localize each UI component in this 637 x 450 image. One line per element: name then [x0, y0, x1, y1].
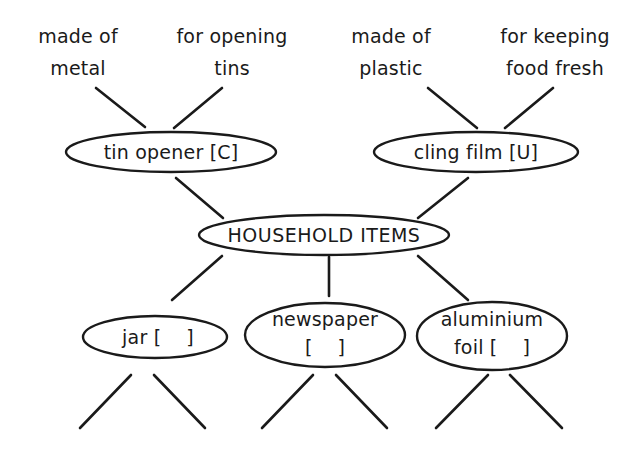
connector-line	[336, 375, 387, 428]
node-label-jar: jar [ ]	[122, 325, 194, 349]
attribute-label: made of plastic	[351, 24, 431, 80]
attribute-line: plastic	[351, 56, 431, 80]
connector-line	[505, 88, 553, 128]
node-label-newspaper: newspaper [ ]	[272, 307, 378, 359]
node-label-tin-opener: tin opener [C]	[104, 140, 239, 164]
attribute-label: for keeping food fresh	[500, 24, 610, 80]
node-label-line: aluminium	[441, 307, 543, 331]
connector-line	[154, 375, 205, 428]
node-label-cling-film: cling film [U]	[414, 140, 538, 164]
attribute-label: for opening tins	[176, 24, 287, 80]
connector-line	[174, 88, 222, 128]
connector-line	[510, 375, 562, 428]
node-label-household-items: HOUSEHOLD ITEMS	[228, 223, 421, 247]
node-label-aluminium-foil: aluminium foil [ ]	[441, 307, 543, 359]
attribute-line: metal	[38, 56, 118, 80]
connector-line	[418, 256, 468, 300]
attribute-line: food fresh	[500, 56, 610, 80]
attribute-line: for opening	[176, 24, 287, 48]
connector-line	[428, 88, 477, 128]
connector-line	[436, 375, 488, 428]
node-label-line: newspaper	[272, 307, 378, 331]
attribute-line: tins	[176, 56, 287, 80]
node-label-line: foil [ ]	[441, 335, 543, 359]
connector-line	[418, 178, 468, 218]
attribute-label: made of metal	[38, 24, 118, 80]
attribute-line: made of	[351, 24, 431, 48]
connector-line	[262, 375, 313, 428]
connector-line	[96, 88, 145, 127]
connector-line	[80, 375, 131, 428]
attribute-line: made of	[38, 24, 118, 48]
connector-line	[176, 178, 223, 218]
connector-line	[172, 256, 222, 300]
attribute-line: for keeping	[500, 24, 610, 48]
node-label-line: [ ]	[272, 335, 378, 359]
